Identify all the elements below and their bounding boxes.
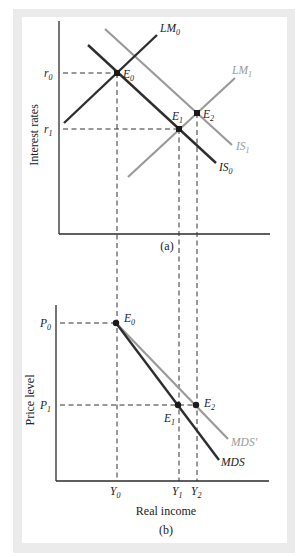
lm0-label: LM0 (159, 22, 180, 37)
lm0-curve (64, 35, 157, 123)
mds-prime-label: MDS' (230, 436, 258, 448)
mds-label: MDS (220, 456, 245, 468)
point-e0-a (114, 70, 120, 76)
point-e1-a (176, 126, 182, 132)
r1-tick-label: r1 (44, 123, 52, 138)
panel-a-caption: (a) (160, 239, 173, 253)
panel-b: MDS' MDS E0 E1 E2 P0 P1 Y0 Y1 Y2 Price l… (23, 305, 269, 537)
is0-label: IS0 (218, 161, 233, 176)
panel-a: LM0 LM1 IS0 IS1 E0 E1 E2 r0 r1 Interest … (27, 21, 270, 481)
point-e0-b (113, 320, 119, 326)
p0-tick-label: P0 (39, 317, 51, 332)
e2-label-b: E2 (203, 397, 215, 412)
price-level-axis-label: Price level (23, 374, 37, 426)
r0-tick-label: r0 (44, 67, 52, 82)
mds-curve (116, 323, 219, 460)
lm1-label: LM1 (231, 64, 252, 79)
point-e2-b (193, 402, 199, 408)
is0-curve (88, 45, 216, 163)
e0-label-b: E0 (123, 312, 135, 327)
is1-label: IS1 (235, 140, 250, 155)
point-e2-a (194, 110, 200, 116)
e1-label-b: E1 (163, 412, 175, 427)
y2-tick-label: Y2 (191, 485, 201, 500)
interest-rates-axis-label: Interest rates (27, 104, 41, 166)
panel-b-caption: (b) (159, 523, 173, 537)
p1-tick-label: P1 (39, 399, 51, 414)
y1-tick-label: Y1 (172, 485, 182, 500)
is1-curve (105, 29, 232, 145)
y0-tick-label: Y0 (110, 485, 120, 500)
islm-mds-diagram: LM0 LM1 IS0 IS1 E0 E1 E2 r0 r1 Interest … (0, 0, 305, 557)
point-e1-b (175, 402, 181, 408)
real-income-axis-label: Real income (136, 504, 196, 518)
e2-label-a: E2 (202, 108, 214, 123)
